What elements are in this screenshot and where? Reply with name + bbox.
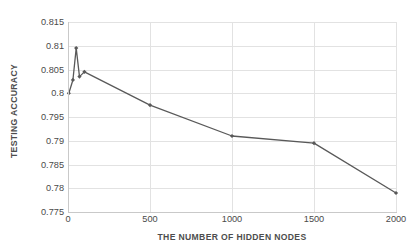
series-line-testing-accuracy — [68, 22, 396, 212]
y-axis-tick-label: 0.79 — [20, 136, 64, 146]
x-axis-tick-label: 0 — [65, 214, 70, 224]
y-axis-tick-label: 0.775 — [20, 207, 64, 217]
line-chart: TESTING ACCURACY 0.7750.780.7850.790.795… — [0, 0, 418, 252]
data-point-marker — [230, 134, 234, 138]
series-path — [69, 48, 396, 193]
x-axis-tick-label: 1500 — [304, 214, 324, 224]
gridline-vertical — [396, 22, 397, 212]
x-axis-tick-label: 1000 — [222, 214, 242, 224]
x-axis-tick-label: 2000 — [386, 214, 406, 224]
y-axis-tick-labels: 0.7750.780.7850.790.7950.80.8050.810.815 — [18, 0, 64, 252]
x-axis-tick-label: 500 — [142, 214, 157, 224]
y-axis-tick-label: 0.78 — [20, 183, 64, 193]
plot-area — [68, 22, 396, 212]
data-point-marker — [71, 78, 75, 82]
x-axis-line — [68, 212, 397, 213]
y-axis-tick-label: 0.8 — [20, 88, 64, 98]
y-axis-tick-label: 0.795 — [20, 112, 64, 122]
y-axis-tick-label: 0.805 — [20, 65, 64, 75]
y-axis-tick-label: 0.785 — [20, 160, 64, 170]
x-axis-title: THE NUMBER OF HIDDEN NODES — [68, 232, 396, 242]
y-axis-line — [68, 22, 69, 213]
y-axis-tick-label: 0.815 — [20, 17, 64, 27]
data-point-marker — [74, 46, 78, 50]
y-axis-tick-label: 0.81 — [20, 41, 64, 51]
